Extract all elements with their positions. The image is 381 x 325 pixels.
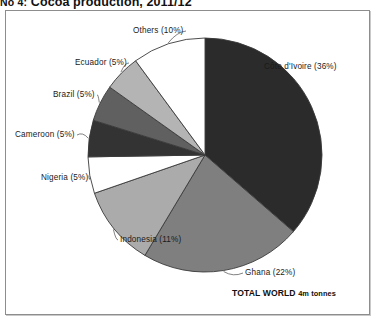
pie-label-indonesia: Indonesia (11%) [120,235,181,245]
pie-label-cameroon: Cameroon (5%) [15,130,75,140]
total-world-note: TOTAL WORLD 4m tonnes [232,288,336,298]
pie-label-ecuador: Ecuador (5%) [75,58,127,68]
pie-chart [0,0,381,325]
total-world-value: 4m tonnes [298,289,336,298]
pie-label-ghana: Ghana (22%) [245,268,295,278]
leader-line-brazil [97,95,99,103]
total-world-label: TOTAL WORLD [232,288,296,298]
pie-label-nigeria: Nigeria (5%) [41,173,88,183]
leader-line-cameroon [77,134,88,138]
pie-label-brazil: Brazil (5%) [53,90,95,100]
leader-line-ghana [224,272,243,275]
pie-label-cote-divoire: Côte d'Ivoire (36%) [264,62,337,72]
pie-label-others: Others (10%) [133,26,184,36]
